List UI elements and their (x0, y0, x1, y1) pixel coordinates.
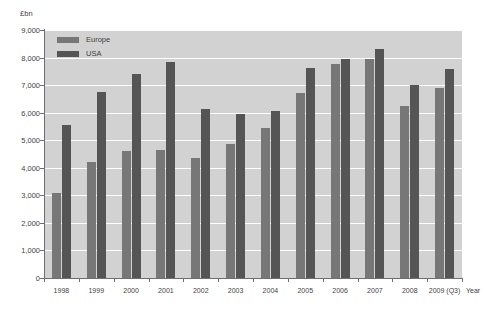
y-axis-tick-label: 8,000 (2, 53, 40, 62)
bar-usa-2008 (410, 85, 419, 278)
y-axis-tick-mark (40, 58, 44, 59)
x-axis-tick-mark (149, 278, 150, 282)
y-axis-line (44, 29, 45, 279)
y-axis-tick-mark (40, 168, 44, 169)
y-axis-tick-labels: 9,0008,0007,0006,0005,0004,0003,0002,000… (0, 0, 40, 319)
gridline (44, 30, 462, 31)
y-axis-tick-mark (40, 113, 44, 114)
x-axis-tick-mark (392, 278, 393, 282)
x-axis-tick-mark (114, 278, 115, 282)
y-axis-tick-label: 0 (2, 274, 40, 283)
legend-label-usa: USA (86, 49, 101, 58)
x-axis-tick-label: 2005 (297, 287, 313, 294)
y-axis-tick-label: 7,000 (2, 81, 40, 90)
x-axis-tick-label: 2006 (332, 287, 348, 294)
plot-area (44, 30, 462, 278)
bar-usa-2000 (132, 74, 141, 278)
x-axis-tick-mark (218, 278, 219, 282)
chart-legend: Europe USA (57, 34, 110, 62)
x-axis-tick-label: 2008 (402, 287, 418, 294)
y-axis-tick-label: 3,000 (2, 191, 40, 200)
bar-usa-2007 (375, 49, 384, 278)
x-axis-tick-mark (462, 278, 463, 282)
bar-usa-2001 (166, 62, 175, 278)
bar-usa-2004 (271, 111, 280, 278)
bar-usa-1999 (97, 92, 106, 278)
legend-swatch-usa (57, 51, 79, 57)
bar-europe-2009-q3- (435, 88, 444, 278)
bar-usa-1998 (62, 125, 71, 278)
y-axis-tick-label: 9,000 (2, 26, 40, 35)
x-axis-tick-mark (323, 278, 324, 282)
bar-usa-2005 (306, 68, 315, 278)
x-axis-tick-label: 1998 (54, 287, 70, 294)
x-axis-tick-label: 2000 (123, 287, 139, 294)
bar-europe-2002 (191, 158, 200, 278)
x-axis-tick-mark (44, 278, 45, 282)
legend-label-europe: Europe (86, 35, 110, 44)
y-axis-tick-label: 1,000 (2, 246, 40, 255)
x-axis-tick-mark (183, 278, 184, 282)
bar-europe-2005 (296, 93, 305, 278)
x-axis-tick-mark (427, 278, 428, 282)
y-axis-tick-mark (40, 250, 44, 251)
legend-item-usa: USA (57, 48, 110, 59)
y-axis-tick-mark (40, 223, 44, 224)
bar-europe-2008 (400, 106, 409, 278)
bar-europe-2006 (331, 64, 340, 278)
bar-usa-2006 (341, 59, 350, 278)
bar-europe-2003 (226, 144, 235, 278)
y-axis-tick-label: 6,000 (2, 108, 40, 117)
x-axis-tick-mark (253, 278, 254, 282)
x-axis-tick-label: 2007 (367, 287, 383, 294)
x-axis-tick-label: 2009 (Q3) (429, 287, 461, 294)
y-axis-tick-label: 2,000 (2, 218, 40, 227)
bar-europe-2007 (365, 59, 374, 278)
legend-item-europe: Europe (57, 34, 110, 45)
bar-europe-2000 (122, 151, 131, 278)
y-axis-tick-label: 4,000 (2, 163, 40, 172)
x-axis-tick-label: 2004 (263, 287, 279, 294)
gridline (44, 85, 462, 86)
y-axis-tick-mark (40, 85, 44, 86)
y-axis-tick-label: 5,000 (2, 136, 40, 145)
y-axis-tick-mark (40, 195, 44, 196)
x-axis-title: Year (466, 287, 480, 294)
bar-chart: £bn 9,0008,0007,0006,0005,0004,0003,0002… (0, 0, 485, 319)
bar-usa-2002 (201, 109, 210, 278)
x-axis-tick-mark (358, 278, 359, 282)
x-axis-tick-mark (79, 278, 80, 282)
legend-swatch-europe (57, 37, 79, 43)
x-axis-line (40, 278, 463, 279)
bar-europe-2004 (261, 128, 270, 278)
x-axis-tick-label: 2001 (158, 287, 174, 294)
bar-europe-1998 (52, 193, 61, 278)
x-axis-tick-label: 2002 (193, 287, 209, 294)
y-axis-tick-mark (40, 30, 44, 31)
x-axis-tick-mark (288, 278, 289, 282)
bar-usa-2003 (236, 114, 245, 278)
x-axis-tick-label: 1999 (88, 287, 104, 294)
bar-europe-2001 (156, 150, 165, 278)
y-axis-tick-mark (40, 140, 44, 141)
bar-europe-1999 (87, 162, 96, 278)
bar-usa-2009-q3- (445, 69, 454, 278)
x-axis-tick-label: 2003 (228, 287, 244, 294)
